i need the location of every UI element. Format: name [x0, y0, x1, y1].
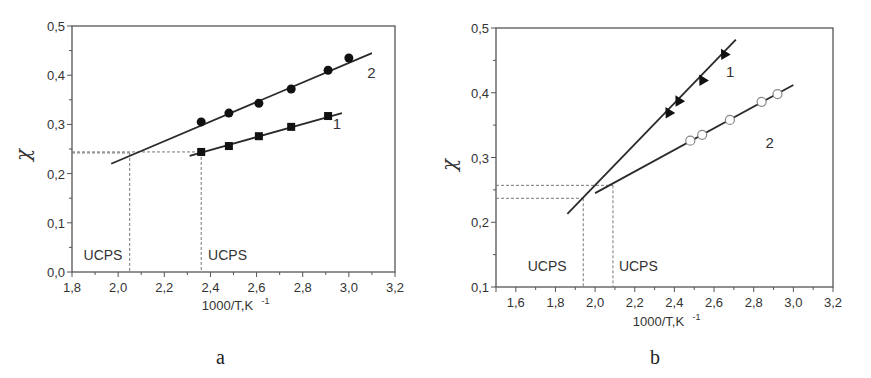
square-marker — [287, 123, 295, 131]
y-tick-label: 0,3 — [47, 117, 65, 132]
x-tick-label: 2,0 — [586, 295, 604, 310]
circle-marker — [324, 66, 333, 75]
x-tick-label: 2,6 — [248, 280, 266, 295]
y-tick-label: 0,4 — [47, 68, 65, 83]
x-tick-label: 3,2 — [824, 295, 842, 310]
y-tick-label: 0,1 — [47, 216, 65, 231]
open-circle-marker — [725, 115, 734, 124]
ucps-annotation: UCPS — [84, 247, 123, 263]
x-tick-label: 2,0 — [109, 280, 127, 295]
square-marker — [197, 148, 205, 156]
square-marker — [324, 112, 332, 120]
y-tick-label: 0,4 — [471, 86, 489, 101]
circle-marker — [287, 84, 296, 93]
open-circle-marker — [686, 136, 695, 145]
x-axis-title: 1000/T,K — [633, 314, 685, 329]
circle-marker — [197, 117, 206, 126]
series-label-1: 1 — [726, 63, 734, 80]
x-tick-label: 1,6 — [507, 295, 525, 310]
x-tick-label: 1,8 — [546, 295, 564, 310]
y-axis-title: χ — [11, 147, 35, 163]
x-tick-label: 3,0 — [340, 280, 358, 295]
y-axis-title: χ — [437, 157, 461, 173]
x-tick-label: 3,2 — [386, 280, 404, 295]
ucps-annotation: UCPS — [208, 247, 247, 263]
figure: 1,82,02,22,42,62,83,03,20,00,10,20,30,40… — [0, 0, 871, 378]
y-tick-label: 0,2 — [47, 167, 65, 182]
x-tick-label: 2,4 — [665, 295, 683, 310]
ucps-annotation: UCPS — [619, 258, 658, 274]
x-tick-label: 2,2 — [626, 295, 644, 310]
x-tick-label: 2,8 — [745, 295, 763, 310]
circle-marker — [254, 99, 263, 108]
x-tick-label: 3,0 — [784, 295, 802, 310]
open-circle-marker — [698, 130, 707, 139]
fit-line-series-2 — [111, 53, 372, 164]
plot-frame — [496, 28, 833, 287]
circle-marker — [224, 109, 233, 118]
x-tick-label: 2,4 — [201, 280, 219, 295]
series-label-2: 2 — [766, 134, 774, 151]
x-tick-label: 2,2 — [155, 280, 173, 295]
x-tick-label: 2,8 — [294, 280, 312, 295]
ucps-annotation: UCPS — [528, 258, 567, 274]
square-marker — [255, 132, 263, 140]
y-tick-label: 0,2 — [471, 215, 489, 230]
x-axis-title-superscript: -1 — [693, 312, 701, 322]
x-axis-title: 1000/T,K — [202, 298, 254, 313]
chart-panel-b: 1,61,82,02,22,42,62,83,03,20,10,20,30,40… — [437, 21, 842, 329]
y-tick-label: 0,0 — [47, 265, 65, 280]
x-axis-title-superscript: -1 — [262, 296, 270, 306]
open-circle-marker — [773, 90, 782, 99]
series-label-2: 2 — [367, 64, 375, 81]
series-label-1: 1 — [333, 115, 341, 132]
open-circle-marker — [757, 97, 766, 106]
circle-marker — [344, 53, 353, 62]
fit-line-series-1 — [567, 40, 736, 214]
x-tick-label: 2,6 — [705, 295, 723, 310]
x-tick-label: 1,8 — [63, 280, 81, 295]
chart-panel-a: 1,82,02,22,42,62,83,03,20,00,10,20,30,40… — [11, 19, 404, 313]
fit-line-series-1 — [190, 113, 342, 156]
y-tick-label: 0,3 — [471, 151, 489, 166]
y-tick-label: 0,5 — [47, 19, 65, 34]
y-tick-label: 0,5 — [471, 21, 489, 36]
panel-label-a: a — [216, 346, 225, 368]
y-tick-label: 0,1 — [471, 280, 489, 295]
panel-label-b: b — [650, 346, 660, 368]
square-marker — [225, 142, 233, 150]
